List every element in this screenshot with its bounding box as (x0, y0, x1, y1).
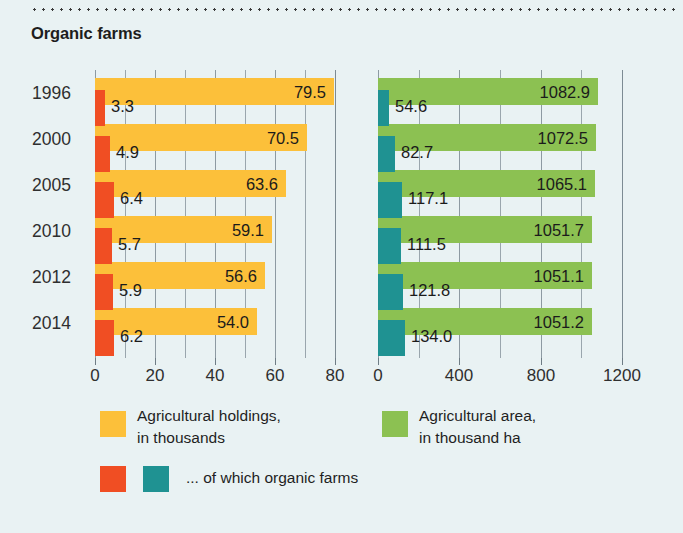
axis-tick-label: 400 (445, 366, 473, 386)
bar-organic-value: 54.6 (395, 98, 427, 115)
gridline (275, 70, 276, 358)
top-dotted-divider (30, 8, 675, 11)
year-label: 2012 (32, 267, 88, 288)
page-title: Organic farms (31, 24, 142, 43)
axis-tick (155, 358, 156, 365)
gridline (622, 70, 623, 358)
bar-organic-value: 5.9 (119, 282, 142, 299)
axis-tick (378, 358, 379, 365)
bar-organic-value: 121.8 (409, 282, 450, 299)
year-label: 1996 (32, 83, 88, 104)
bar-organic-value: 117.1 (408, 190, 448, 207)
year-label: 2005 (32, 175, 88, 196)
bar-organic-value: 111.5 (407, 236, 446, 253)
axis-tick (335, 358, 336, 365)
gridline (305, 70, 306, 358)
bar-organic-value: 82.7 (401, 144, 433, 161)
axis-tick (622, 358, 623, 365)
axis-tick-label: 0 (90, 366, 99, 386)
legend-swatch-organic-area (143, 466, 169, 492)
axis-tick-label: 80 (326, 366, 345, 386)
chart-legend: Agricultural holdings, in thousands Agri… (0, 400, 683, 510)
bar-organic-value: 6.2 (120, 328, 143, 345)
legend-swatch-area (382, 411, 408, 437)
chart-page: Organic farms 199620002005201020122014 0… (0, 0, 683, 533)
year-label: 2014 (32, 313, 88, 334)
axis-tick-label: 1200 (603, 366, 641, 386)
gridline (335, 70, 336, 358)
plot-area-left: 02040608079.53.370.54.963.66.459.15.756.… (95, 70, 335, 358)
bar-total-value: 54.0 (95, 314, 249, 331)
bar-total-value: 1051.2 (378, 314, 584, 331)
legend-label-organic-note: ... of which organic farms (186, 468, 358, 488)
legend-label-holdings-line1: Agricultural holdings, (137, 406, 281, 426)
axis-tick (275, 358, 276, 365)
bar-organic-value: 134.0 (411, 328, 452, 345)
year-label: 2010 (32, 221, 88, 242)
axis-tick (95, 358, 96, 365)
legend-label-area-line1: Agricultural area, (419, 406, 536, 426)
legend-swatch-holdings (100, 411, 126, 437)
legend-swatch-organic-holdings (100, 466, 126, 492)
bar-organic-value: 4.9 (116, 144, 139, 161)
bar-organic-value: 6.4 (120, 190, 143, 207)
axis-tick (459, 358, 460, 365)
bar-organic-value: 3.3 (111, 98, 134, 115)
plot-area-right: 040080012001082.954.61072.582.71065.1117… (378, 70, 622, 358)
axis-tick-label: 40 (206, 366, 225, 386)
legend-label-holdings-line2: in thousands (137, 428, 225, 448)
axis-tick-label: 60 (266, 366, 285, 386)
bar-organic-value: 5.7 (118, 236, 141, 253)
axis-tick-label: 20 (146, 366, 165, 386)
legend-label-area-line2: in thousand ha (419, 428, 521, 448)
axis-tick (541, 358, 542, 365)
axis-tick (215, 358, 216, 365)
year-label: 2000 (32, 129, 88, 150)
axis-tick-label: 800 (527, 366, 555, 386)
axis-tick-label: 0 (373, 366, 382, 386)
